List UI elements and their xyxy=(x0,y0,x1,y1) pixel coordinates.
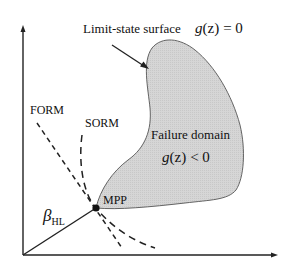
failure-domain-label: Failure domain xyxy=(151,127,231,142)
limit-state-arg: (z) xyxy=(203,20,220,37)
mpp-point xyxy=(92,204,99,211)
limit-state-equation: g(z)= 0 xyxy=(195,20,243,37)
failure-domain-equation: g(z)< 0 xyxy=(162,149,210,166)
mpp-label: MPP xyxy=(103,193,127,207)
form-label: FORM xyxy=(30,103,64,117)
limit-state-label: Limit-state surface xyxy=(83,21,181,36)
y-axis-arrow-icon xyxy=(21,25,26,32)
beta-hl-label: βHL xyxy=(42,206,65,227)
limit-state-pointer-arrow xyxy=(112,45,144,66)
reliability-diagram: Limit-state surface g(z)= 0 FORM SORM Fa… xyxy=(0,0,284,270)
x-axis-arrow-icon xyxy=(271,253,278,258)
sorm-label: SORM xyxy=(85,116,119,130)
